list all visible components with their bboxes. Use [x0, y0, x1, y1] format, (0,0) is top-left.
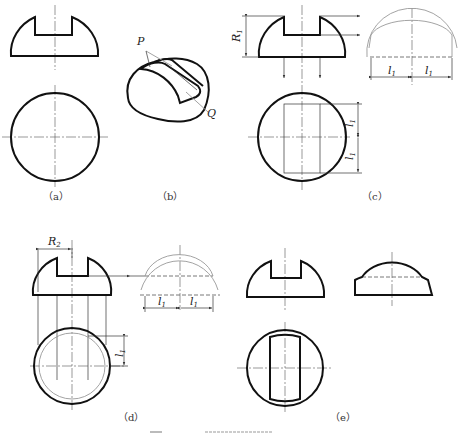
- top-view: [2, 85, 108, 187]
- dim-R1: R1: [230, 29, 244, 43]
- front-view: [11, 5, 98, 70]
- caption-c: （c）: [362, 191, 388, 202]
- engineering-drawing: （a） P Q （b） R1: [0, 0, 458, 435]
- front-view: [247, 248, 324, 310]
- side-view: [355, 252, 432, 306]
- caption-b: （b）: [157, 191, 183, 202]
- dim-l1: l1: [343, 119, 357, 127]
- panel-a: （a）: [2, 5, 108, 202]
- side-view: l1 l1: [140, 245, 220, 312]
- dim-l1: l1: [158, 295, 166, 309]
- top-view: l1: [30, 328, 128, 404]
- label-P: P: [136, 35, 145, 48]
- top-view: [237, 322, 333, 412]
- panel-c: R1 l1 l1 l1 l1 （c）: [230, 5, 457, 202]
- dim-l1: l1: [425, 64, 433, 78]
- caption-a: （a）: [43, 191, 69, 202]
- dim-l1: l1: [113, 349, 127, 357]
- isometric-view: [127, 51, 208, 122]
- panel-d: R2 l1 l1 l1 （d）: [30, 235, 220, 423]
- dim-R2: R2: [47, 235, 61, 249]
- label-Q: Q: [207, 107, 216, 120]
- panel-b: P Q （b）: [127, 35, 216, 202]
- dim-l1: l1: [343, 152, 357, 160]
- caption-e: （e）: [330, 412, 356, 423]
- front-view: [242, 5, 360, 190]
- dim-l1: l1: [190, 295, 198, 309]
- top-view: l1 l1: [248, 93, 362, 181]
- dim-l1: l1: [388, 64, 396, 78]
- panel-e: （e）: [237, 248, 432, 423]
- caption-d: （d）: [118, 412, 144, 423]
- front-view: [33, 240, 145, 410]
- side-view: l1 l1: [367, 8, 457, 85]
